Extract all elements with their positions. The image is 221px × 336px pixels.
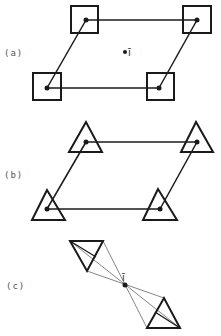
- lattice-point: [45, 207, 50, 212]
- triangle-motif: [69, 122, 102, 152]
- inversion-center-point: [123, 50, 127, 54]
- inversion-center-point: [123, 283, 128, 288]
- lattice-point: [84, 18, 89, 23]
- panel-c-label: (c): [6, 281, 25, 291]
- inversion-center-label: ī: [127, 47, 131, 58]
- lattice-point: [157, 86, 162, 91]
- panel-a: (a) ī: [4, 6, 211, 100]
- figure-diagram: (a) ī (b): [0, 0, 221, 336]
- lattice-point: [45, 86, 50, 91]
- lattice-point: [195, 18, 200, 23]
- triangle-motif-inverted: [147, 298, 180, 328]
- panel-a-label: (a): [4, 48, 23, 58]
- lattice-point: [158, 207, 163, 212]
- triangle-motif: [70, 241, 103, 271]
- triangle-motif: [143, 189, 177, 220]
- panel-b-label: (b): [4, 170, 23, 180]
- lattice-edge: [159, 20, 197, 88]
- triangle-motif: [181, 122, 213, 152]
- lattice-point: [195, 140, 200, 145]
- inversion-center-label: ī: [121, 272, 125, 283]
- panel-b: (b): [4, 122, 213, 220]
- panel-c: (c) ī: [6, 241, 180, 328]
- lattice-point: [84, 140, 89, 145]
- lattice-edge: [47, 20, 86, 88]
